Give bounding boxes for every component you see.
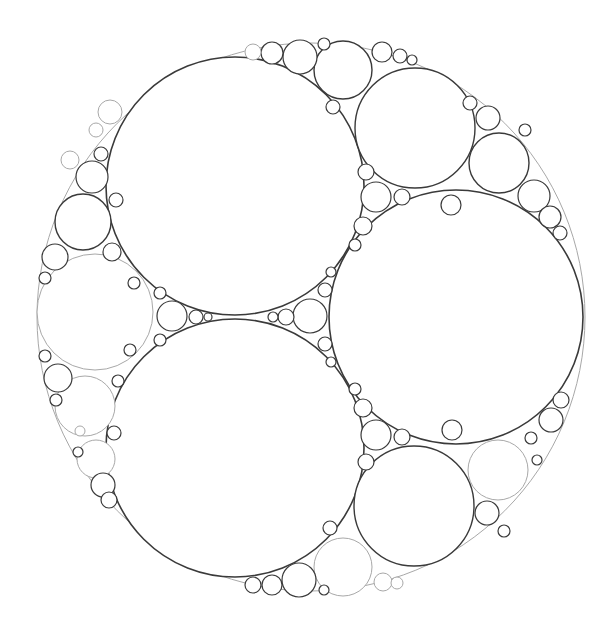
- circle-top-4: [318, 38, 330, 50]
- circle-center-5: [318, 337, 332, 351]
- circle-gap-BC-2: [394, 429, 410, 445]
- circle-leftlow-5: [101, 492, 117, 508]
- circle-gap-left-5: [154, 334, 166, 346]
- circle-gap-left-1: [157, 301, 187, 331]
- circle-center-2: [278, 309, 294, 325]
- circle-center-4: [318, 283, 332, 297]
- circle-rightlow-5: [525, 432, 537, 444]
- circle-B-bottom-left-large: [106, 319, 364, 577]
- circle-gap-AC-5: [349, 239, 361, 251]
- circle-gap-AC-3: [358, 164, 374, 180]
- circle-A-top-left-large: [106, 57, 364, 315]
- circle-top-7: [372, 42, 392, 62]
- circle-left-9: [39, 272, 51, 284]
- circle-top-9: [407, 55, 417, 65]
- circle-gap-BC-1: [361, 420, 391, 450]
- circle-left-7: [98, 100, 122, 124]
- circle-leftlow-6: [39, 350, 51, 362]
- circle-gap-AC-4: [354, 217, 372, 235]
- circle-bot-6: [323, 521, 337, 535]
- circle-bot-8: [391, 577, 403, 589]
- circle-leftlow-10: [124, 344, 136, 356]
- circle-right-8: [441, 195, 461, 215]
- circle-right-4: [553, 226, 567, 240]
- circle-gap-AC-2: [394, 189, 410, 205]
- circle-gap-BC-4: [354, 399, 372, 417]
- circle-bot-4: [245, 577, 261, 593]
- gasket-svg: [0, 0, 605, 624]
- circle-leftlow-9: [107, 426, 121, 440]
- circle-right-3: [539, 206, 561, 228]
- circle-right-1: [469, 133, 529, 193]
- circle-left-4: [103, 243, 121, 261]
- circle-leftlow-7: [50, 394, 62, 406]
- circle-gap-left-4: [154, 287, 166, 299]
- circle-gap-left-2: [189, 310, 203, 324]
- circle-bot-2: [282, 563, 316, 597]
- circle-leftlow-8: [112, 375, 124, 387]
- circle-right-7: [519, 124, 531, 136]
- circle-leftlow-2: [44, 364, 72, 392]
- circle-rightlow-7: [498, 525, 510, 537]
- circle-left-2: [76, 161, 108, 193]
- circle-gap-AC-1: [361, 182, 391, 212]
- circle-center-7: [326, 357, 336, 367]
- circle-bot-7: [374, 573, 392, 591]
- circle-left-8: [89, 123, 103, 137]
- circle-left-3: [42, 244, 68, 270]
- circle-left-5: [94, 147, 108, 161]
- circle-center-3: [268, 312, 278, 322]
- circle-gap-BC-5: [349, 383, 361, 395]
- circle-top-3: [261, 42, 283, 64]
- circle-top-5: [245, 44, 261, 60]
- circle-bot-3: [262, 575, 282, 595]
- circle-top-2: [283, 40, 317, 74]
- circle-leftlow-12: [73, 447, 83, 457]
- circle-left-1: [55, 194, 111, 250]
- circle-right-5: [476, 106, 500, 130]
- circle-rightlow-3: [539, 408, 563, 432]
- circle-center-6: [326, 267, 336, 277]
- circle-top-6: [326, 100, 340, 114]
- circle-rightlow-2: [475, 501, 499, 525]
- circle-rightlow-4: [553, 392, 569, 408]
- circle-gap-left-3: [204, 313, 212, 321]
- circle-gap-BC-3: [358, 454, 374, 470]
- apollonian-gasket-figure: [0, 0, 605, 624]
- circle-leftlow-11: [75, 426, 85, 436]
- circle-right-6: [463, 96, 477, 110]
- circle-rightlow-1: [468, 440, 528, 500]
- circle-center-1: [293, 299, 327, 333]
- circle-leftlow-3: [77, 440, 115, 478]
- circle-left-10: [109, 193, 123, 207]
- circle-left-11: [128, 277, 140, 289]
- circle-rightlow-6: [442, 420, 462, 440]
- circle-bot-5: [319, 585, 329, 595]
- circle-top-8: [393, 49, 407, 63]
- circle-rightlow-8: [532, 455, 542, 465]
- circle-left-6: [61, 151, 79, 169]
